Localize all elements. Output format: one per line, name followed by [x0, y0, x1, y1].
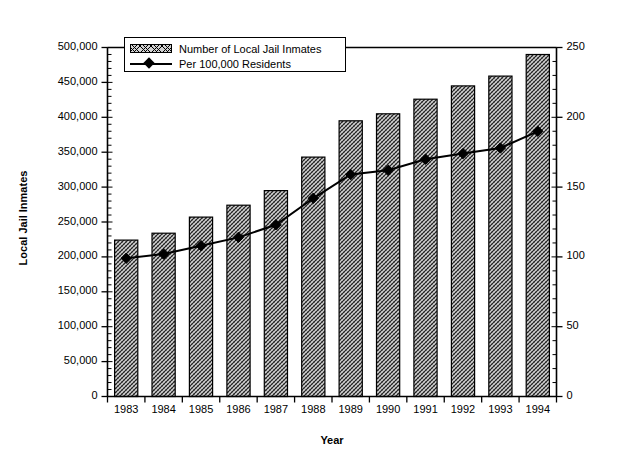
x-axis-tick-label: 1991 [406, 403, 446, 415]
x-axis-tick-label: 1993 [480, 403, 520, 415]
chart-legend: Number of Local Jail Inmates Per 100,000… [124, 37, 346, 72]
bar [377, 114, 400, 397]
x-axis-tick-label: 1989 [331, 403, 371, 415]
bar [451, 86, 474, 397]
hatched-bar-swatch-icon [130, 44, 172, 53]
y-axis-tick-label-right: 50 [567, 319, 627, 331]
y-axis-tick-label-right: 250 [567, 40, 627, 52]
line-diamond-swatch-icon [130, 59, 172, 68]
y-axis-tick-label-left: 100,000 [26, 319, 98, 331]
y-axis-tick-label-left: 250,000 [26, 215, 98, 227]
bar [489, 76, 512, 396]
y-axis-tick-label-left: 0 [26, 389, 98, 401]
y-axis-tick-label-left: 350,000 [26, 145, 98, 157]
y-axis-tick-label-left: 300,000 [26, 180, 98, 192]
y-axis-tick-label-left: 500,000 [26, 40, 98, 52]
x-axis-tick-label: 1985 [181, 403, 221, 415]
y-axis-tick-label-right: 200 [567, 110, 627, 122]
x-axis-tick-label: 1984 [144, 403, 184, 415]
x-axis-tick-label: 1990 [368, 403, 408, 415]
bar [526, 55, 549, 397]
x-axis-tick-label: 1988 [293, 403, 333, 415]
x-axis-tick-label: 1986 [218, 403, 258, 415]
y-axis-tick-label-right: 0 [567, 389, 627, 401]
y-axis-tick-label-left: 450,000 [26, 75, 98, 87]
x-axis-tick-label: 1994 [518, 403, 558, 415]
line-markers [121, 126, 543, 263]
line-series [126, 131, 538, 258]
bar [339, 121, 362, 397]
bar [414, 99, 437, 396]
x-axis-tick-label: 1983 [106, 403, 146, 415]
y-axis-tick-label-right: 100 [567, 249, 627, 261]
legend-item-line: Per 100,000 Residents [130, 56, 340, 71]
legend-item-bars: Number of Local Jail Inmates [130, 41, 340, 56]
x-axis-tick-label: 1987 [256, 403, 296, 415]
x-axis-title: Year [107, 434, 557, 446]
y-axis-tick-label-left: 150,000 [26, 284, 98, 296]
legend-label-bars: Number of Local Jail Inmates [179, 43, 321, 55]
bar-series [115, 55, 550, 397]
y-axis-tick-label-right: 150 [567, 180, 627, 192]
y-axis-tick-label-left: 400,000 [26, 110, 98, 122]
jail-inmates-combo-chart: Local Jail Inmates Jail Inmates per 100,… [0, 0, 640, 464]
y-axis-tick-label-left: 50,000 [26, 354, 98, 366]
legend-label-line: Per 100,000 Residents [179, 58, 291, 70]
y-axis-tick-label-left: 200,000 [26, 249, 98, 261]
x-axis-tick-label: 1992 [443, 403, 483, 415]
